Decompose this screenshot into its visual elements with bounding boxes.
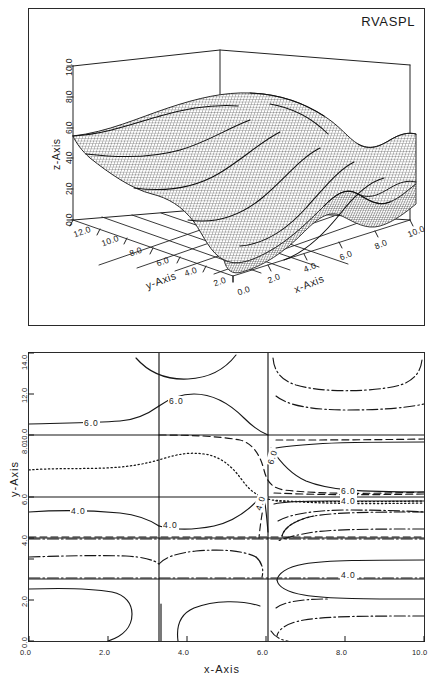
surface-z-tick-5: 10.0 [64, 58, 74, 76]
surface-z-tick-4: 8.0 [64, 90, 74, 103]
contour-x-axis-label: x-Axis [0, 663, 444, 675]
contour-y-tick-0: 0.0 [20, 637, 29, 648]
contour-y-tick-2: 2.0 [20, 596, 29, 607]
contour-x-tick-8: 8.0 [336, 648, 347, 657]
surface-z-tick-0: 0.0 [64, 213, 74, 226]
contour-y-tick-6: 6.0 [20, 494, 29, 505]
surface-z-tick-2: 4.0 [64, 151, 74, 164]
contour-label-1: 6.0 [83, 418, 100, 428]
contour-y-tick-8: 8.0 [20, 443, 29, 454]
surface-z-tick-1: 2.0 [64, 182, 74, 195]
contour-plot-canvas [28, 352, 425, 642]
contour-x-tick-6: 6.0 [257, 648, 268, 657]
contour-label-9: 4.0 [340, 570, 357, 580]
contour-label-8: 4.0 [340, 496, 357, 506]
surface-z-tick-3: 6.0 [64, 121, 74, 134]
contour-label-4: 6.0 [340, 486, 357, 496]
contour-x-tick-4: 4.0 [178, 648, 189, 657]
contour-y-tick-4: 4.0 [20, 535, 29, 546]
contour-label-5: 4.0 [70, 506, 87, 516]
figure-page: RVASPL [0, 0, 444, 686]
surface-plot-panel: RVASPL [28, 8, 425, 326]
contour-plot-panel: 6.0 6.0 6.0 6.0 4.0 4.0 4.0 4.0 4.0 [28, 352, 425, 642]
contour-label-2: 6.0 [168, 396, 185, 406]
contour-label-6: 4.0 [162, 520, 179, 530]
contour-x-tick-0: 0.0 [20, 648, 31, 657]
contour-y-axis-label: y-Axis [8, 461, 20, 497]
contour-x-tick-2: 2.0 [99, 648, 110, 657]
contour-y-tick-14: 14.0 [20, 355, 29, 370]
contour-x-tick-10: 10.0 [412, 648, 427, 657]
surface-plot-canvas [28, 8, 425, 326]
surface-z-axis-label: z-Axis [50, 138, 62, 170]
contour-y-tick-12: 12.0 [20, 388, 29, 403]
contour-y-tick-10: 10.0 [20, 429, 29, 444]
